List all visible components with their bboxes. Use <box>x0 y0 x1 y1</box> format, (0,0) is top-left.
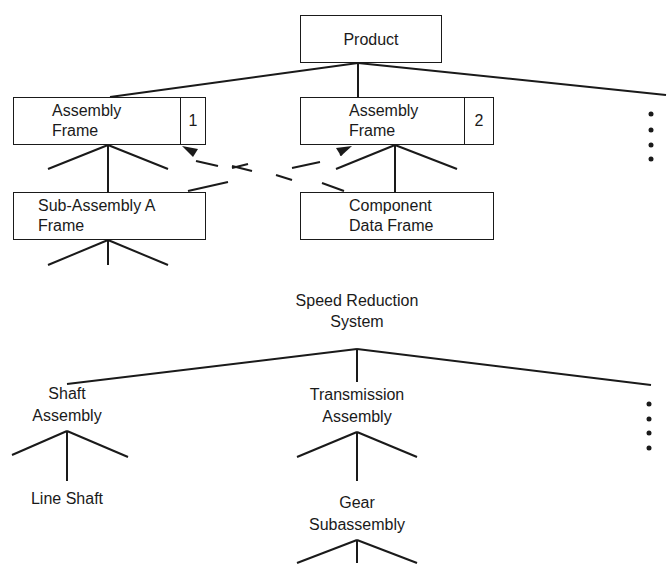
transmission-assembly-line1: Transmission <box>257 384 457 405</box>
transmission-assembly-line2: Assembly <box>257 406 457 427</box>
arrowhead-to-assembly1 <box>182 146 198 157</box>
sub-assembly-a-line2: Frame <box>38 215 84 236</box>
assembly-frame-2-node: Assembly Frame 2 <box>300 97 494 145</box>
sub-assembly-a-line1: Sub-Assembly A <box>38 195 155 216</box>
assembly-frame-1-node: Assembly Frame 1 <box>13 97 206 145</box>
ellipsis-dots-bottom <box>647 402 652 451</box>
shaft-assembly-line2: Assembly <box>0 405 134 426</box>
component-data-frame-line2: Data Frame <box>349 215 433 236</box>
speed-reduction-system-line2: System <box>257 311 457 332</box>
frame-tag-1: 1 <box>180 98 205 144</box>
ellipsis-dots-top <box>649 112 654 162</box>
gear-subassembly-line2: Subassembly <box>257 514 457 535</box>
line-shaft-label: Line Shaft <box>0 488 134 509</box>
component-data-frame-line1: Component <box>349 195 432 216</box>
arrowhead-to-assembly2 <box>336 146 352 156</box>
gear-subassembly-line1: Gear <box>257 492 457 513</box>
speed-reduction-system-line1: Speed Reduction <box>257 290 457 311</box>
product-node: Product <box>300 15 442 63</box>
edge-product-more <box>358 63 666 95</box>
product-label: Product <box>301 29 441 50</box>
frame-tag-2: 2 <box>464 98 493 144</box>
edge-product-assembly1 <box>110 63 358 97</box>
sub-assembly-a-frame-node: Sub-Assembly A Frame <box>13 192 206 240</box>
assembly-frame-1-line2: Frame <box>52 120 98 141</box>
assembly-frame-1-line1: Assembly <box>52 100 121 121</box>
shaft-assembly-line1: Shaft <box>0 383 134 404</box>
assembly-frame-2-line1: Assembly <box>349 100 418 121</box>
component-data-frame-node: Component Data Frame <box>300 192 494 240</box>
assembly-frame-2-line2: Frame <box>349 120 395 141</box>
